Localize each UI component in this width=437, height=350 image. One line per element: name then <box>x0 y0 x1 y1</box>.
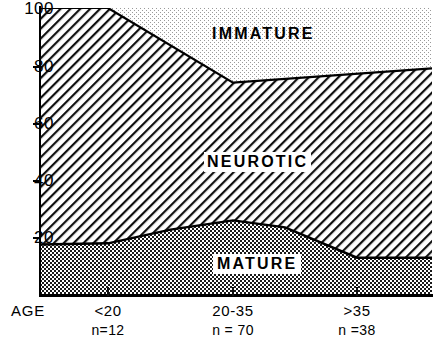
x-category-n-over-35: n =38 <box>312 322 402 338</box>
y-axis-label-40: 40 <box>34 172 54 189</box>
x-category-group-under-20: <20 n=12 <box>63 302 153 338</box>
x-category-label-over-35: >35 <box>312 302 402 319</box>
plot-area: IMMATURE NEUROTIC MATURE <box>40 8 432 295</box>
band-label-immature: IMMATURE <box>212 25 315 43</box>
band-label-mature: MATURE <box>213 254 301 274</box>
stacked-area-chart: IMMATURE NEUROTIC MATURE 100 80 60 40 20… <box>0 0 437 350</box>
y-axis-label-20: 20 <box>34 229 54 246</box>
x-category-n-20-35: n = 70 <box>188 322 278 338</box>
y-axis-label-100: 100 <box>24 0 54 17</box>
x-tick-20-35 <box>232 287 234 296</box>
x-category-group-over-35: >35 n =38 <box>312 302 402 338</box>
y-axis-label-80: 80 <box>34 58 54 75</box>
x-category-group-20-35: 20-35 n = 70 <box>188 302 278 338</box>
x-category-label-20-35: 20-35 <box>188 302 278 319</box>
x-category-n-under-20: n=12 <box>63 322 153 338</box>
x-tick-over-35 <box>356 287 358 296</box>
x-category-label-under-20: <20 <box>63 302 153 319</box>
x-axis-line <box>39 294 433 297</box>
y-axis-label-60: 60 <box>34 115 54 132</box>
y-axis-line <box>39 6 41 297</box>
band-label-neurotic: NEUROTIC <box>204 152 311 172</box>
x-axis-title: AGE <box>11 302 45 319</box>
x-tick-under-20 <box>107 287 109 296</box>
